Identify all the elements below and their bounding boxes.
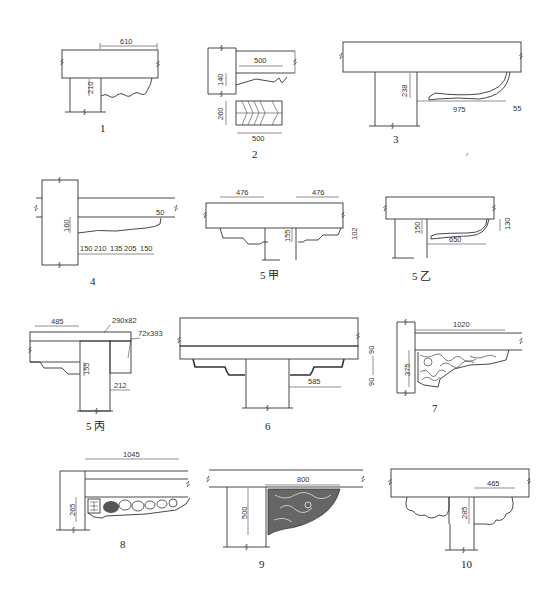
dim-9-height: 500 [240, 506, 249, 519]
dim-8-height: 265 [68, 503, 77, 516]
dim-5c-post: 72x393 [138, 329, 163, 338]
dim-5c-offset: 212 [114, 381, 127, 390]
dim-8-top: 1045 [123, 450, 140, 459]
dim-2-top: 500 [254, 56, 267, 65]
figure-4: 160 50 150 210 135 205 150 4 [34, 177, 178, 287]
caption-9: 9 [259, 558, 265, 570]
caption-8: 8 [120, 538, 126, 550]
figure-1: 610 210 1 [60, 37, 160, 134]
drawing-sheet: 610 210 1 500 140 260 500 2 [0, 0, 558, 601]
figure-5a: 476 476 155 102 5 甲 [203, 188, 359, 281]
dim-5b-length: 650 [449, 235, 462, 244]
caption-3: 3 [393, 133, 399, 145]
caption-1: 1 [100, 122, 106, 134]
dim-3-length: 975 [453, 105, 466, 114]
dim-4-height: 160 [62, 219, 71, 232]
caption-10: 10 [461, 558, 473, 570]
dim-5a-height: 155 [283, 229, 292, 242]
dim-7-height: 375 [403, 363, 412, 376]
stray-mark [466, 153, 468, 156]
caption-4: 4 [90, 275, 96, 287]
dim-4-seg-2: 210 [94, 244, 107, 253]
dim-5a-right: 476 [312, 188, 325, 197]
dim-1-height: 210 [86, 81, 95, 94]
dim-2-block-height: 260 [216, 107, 225, 120]
figure-7: 1020 375 7 [397, 319, 523, 414]
dim-10-top: 465 [487, 479, 500, 488]
figure-8: 1045 265 8 [56, 450, 190, 550]
dim-3-height: 238 [400, 84, 409, 97]
dim-5c-height: 155 [82, 362, 91, 375]
dim-4-seg-5: 150 [140, 244, 153, 253]
dim-2-height: 140 [216, 73, 225, 86]
dim-6-upper: 90 [367, 346, 376, 354]
dim-5a-left: 476 [236, 188, 249, 197]
figure-10: 465 285 10 [388, 469, 531, 570]
caption-5c: 5 丙 [86, 420, 105, 432]
dim-1-top: 610 [120, 37, 133, 46]
caption-5b: 5 乙 [412, 270, 431, 282]
dim-5b-height: 150 [413, 221, 422, 234]
dim-4-seg-3: 135 [110, 244, 123, 253]
figure-5b: 150 130 650 5 乙 [383, 197, 512, 282]
figure-5c: 485 290x82 72x393 155 212 5 丙 [28, 316, 163, 432]
dim-5c-beam: 290x82 [112, 316, 137, 325]
caption-6: 6 [265, 420, 271, 432]
dim-5a-side: 102 [350, 227, 359, 240]
dim-4-seg-1: 150 [80, 244, 93, 253]
dim-6-length: 585 [308, 377, 321, 386]
figure-9: 800 500 9 [206, 470, 365, 570]
figure-3: 238 975 55 3 [339, 42, 523, 145]
dim-4-tip: 50 [156, 208, 164, 217]
caption-7: 7 [432, 402, 438, 414]
dim-6-lower: 90 [367, 378, 376, 386]
figure-2: 500 140 260 500 2 [208, 45, 297, 160]
dim-9-top: 800 [297, 475, 310, 484]
dim-2-block-width: 500 [252, 134, 265, 143]
dim-5b-side: 130 [503, 217, 512, 230]
dim-10-height: 285 [460, 506, 469, 519]
dim-7-top: 1020 [453, 320, 470, 329]
dim-3-tip: 55 [513, 104, 521, 113]
dim-4-seg-4: 205 [124, 244, 137, 253]
dim-5c-top: 485 [51, 317, 64, 326]
figure-6: 585 90 90 6 [177, 318, 376, 432]
caption-5a: 5 甲 [260, 269, 279, 281]
caption-2: 2 [252, 148, 258, 160]
